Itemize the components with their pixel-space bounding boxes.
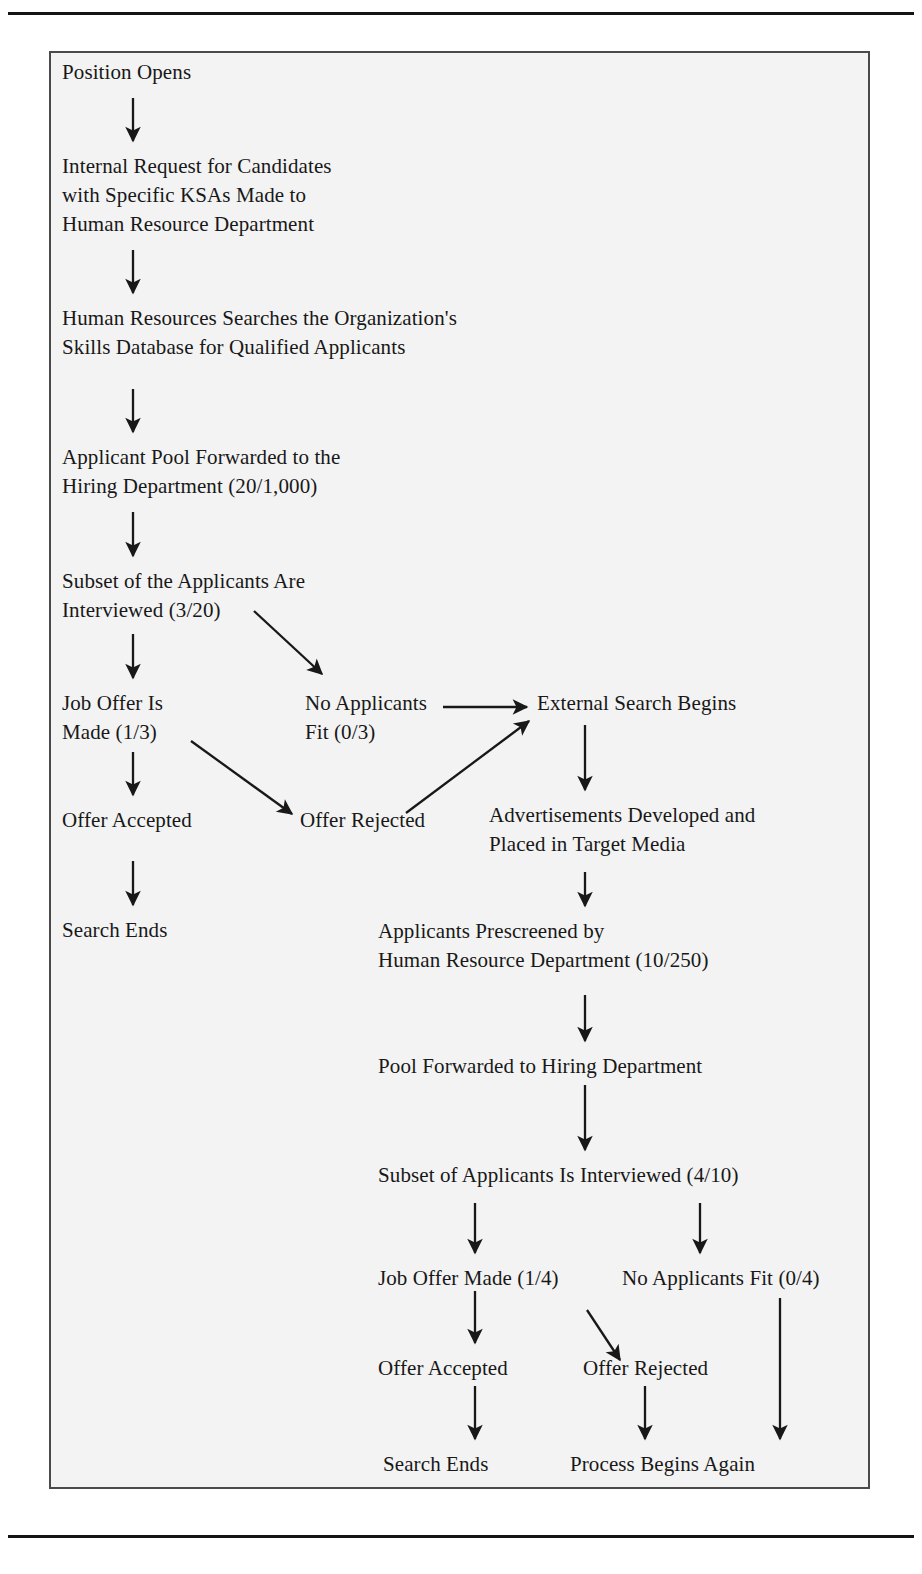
top-horizontal-rule	[8, 12, 914, 15]
node-offer-rejected-internal: Offer Rejected	[300, 806, 425, 835]
node-hr-searches: Human Resources Searches the Organizatio…	[62, 304, 457, 362]
node-subset-interviewed: Subset of the Applicants Are Interviewed…	[62, 567, 305, 625]
node-applicants-prescreened: Applicants Prescreened by Human Resource…	[378, 917, 709, 975]
node-process-begins-again: Process Begins Again	[570, 1450, 755, 1479]
node-applicant-pool-forwarded: Applicant Pool Forwarded to the Hiring D…	[62, 443, 340, 501]
node-subset-interviewed-external: Subset of Applicants Is Interviewed (4/1…	[378, 1161, 739, 1190]
node-position-opens: Position Opens	[62, 58, 191, 87]
node-search-ends-internal: Search Ends	[62, 916, 168, 945]
node-internal-request: Internal Request for Candidates with Spe…	[62, 152, 332, 239]
node-offer-accepted-internal: Offer Accepted	[62, 806, 192, 835]
bottom-horizontal-rule	[8, 1535, 914, 1538]
node-no-applicants-fit-4: No Applicants Fit (0/4)	[622, 1264, 820, 1293]
node-advertisements: Advertisements Developed and Placed in T…	[489, 801, 755, 859]
node-job-offer-is-made: Job Offer Is Made (1/3)	[62, 689, 163, 747]
node-offer-rejected-external: Offer Rejected	[583, 1354, 708, 1383]
figure-page: Position Opens Internal Request for Cand…	[0, 0, 922, 1574]
node-pool-forwarded-hiring: Pool Forwarded to Hiring Department	[378, 1052, 702, 1081]
node-search-ends-external: Search Ends	[383, 1450, 489, 1479]
node-external-search-begins: External Search Begins	[537, 689, 736, 718]
node-job-offer-made-4: Job Offer Made (1/4)	[378, 1264, 559, 1293]
node-no-applicants-fit-3: No Applicants Fit (0/3)	[305, 689, 427, 747]
node-offer-accepted-external: Offer Accepted	[378, 1354, 508, 1383]
